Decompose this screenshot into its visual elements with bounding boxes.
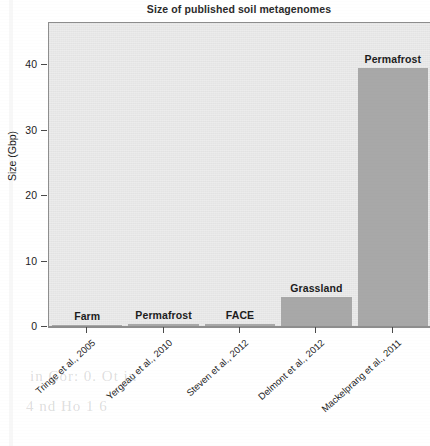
y-tick-mark-30 [41,130,47,131]
x-tick-label-0: Tringe et al., 2005 [34,337,98,396]
bar-value-label-3: Grassland [281,282,351,294]
x-tick-label-1: Yergeau et al., 2010 [104,337,174,402]
y-tick-label-10: 10 [11,255,37,267]
y-tick-mark-10 [41,261,47,262]
y-tick-label-0: 0 [11,320,37,332]
y-tick-mark-0 [41,326,47,327]
bar-value-label-4: Permafrost [358,53,428,65]
x-tick-mark-2 [239,327,240,333]
y-tick-label-40: 40 [11,58,37,70]
x-tick-label-2: Steven et al., 2012 [184,337,250,398]
y-tick-label-30: 30 [11,124,37,136]
x-tick-mark-4 [392,327,393,333]
chart-figure: Size of published soil metagenomes Size … [0,0,430,446]
x-tick-mark-3 [315,327,316,333]
bar-grassland-3 [281,297,351,327]
bar-value-label-1: Permafrost [128,309,198,321]
x-tick-label-4: Mackelprang et al., 2011 [319,337,403,414]
chart-title: Size of published soil metagenomes [48,3,430,15]
bar-permafrost-4 [358,68,428,327]
bar-value-label-2: FACE [205,309,275,321]
x-tick-label-3: Delmont et al., 2012 [256,337,327,402]
y-tick-mark-20 [41,195,47,196]
bar-value-label-0: Farm [52,310,122,322]
x-tick-mark-0 [86,327,87,333]
ghost-text-line-2: 4 nd Ho 1 6 [26,398,108,415]
y-axis: Size (Gbp) 010203040 [0,22,48,327]
x-tick-mark-1 [163,327,164,333]
y-tick-label-20: 20 [11,189,37,201]
plot-area: FarmPermafrostFACEGrasslandPermafrost [48,22,430,327]
y-tick-mark-40 [41,64,47,65]
